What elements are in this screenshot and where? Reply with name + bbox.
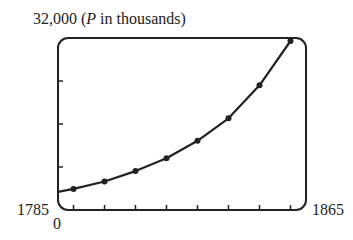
plot-area (0, 0, 353, 240)
data-point (288, 38, 294, 44)
population-curve (58, 41, 291, 192)
data-point (133, 168, 139, 174)
data-point (195, 138, 201, 144)
data-point (226, 115, 232, 121)
data-point (71, 186, 77, 192)
data-point (257, 82, 263, 88)
data-point (164, 155, 170, 161)
data-point (102, 178, 108, 184)
